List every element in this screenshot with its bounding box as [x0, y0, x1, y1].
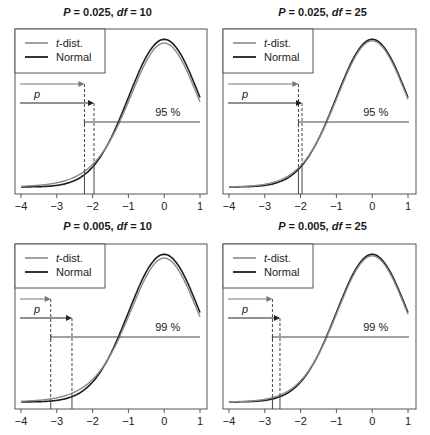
plot-panel-4: −4−3−2−101p99 %t-dist.Normal	[223, 244, 416, 427]
x-tick-label: −1	[122, 415, 135, 427]
x-tick-label: −1	[122, 200, 135, 212]
arrowhead-icon	[292, 81, 298, 87]
x-tick-label: −1	[330, 415, 343, 427]
chart-canvas: −4−3−2−101p95 %t-dist.Normal−4−3−2−101p9…	[0, 0, 430, 435]
x-tick-label: −3	[51, 415, 64, 427]
legend-label-normal: Normal	[56, 51, 91, 63]
x-tick-label: −3	[259, 200, 272, 212]
x-tick-label: −1	[330, 200, 343, 212]
x-tick-label: −2	[86, 415, 99, 427]
x-tick-label: −2	[294, 415, 307, 427]
legend-label-t-dist: t-dist.	[56, 252, 83, 264]
p-label: p	[241, 303, 248, 315]
plot-panel-1: −4−3−2−101p95 %t-dist.Normal	[15, 29, 207, 212]
x-tick-label: 1	[197, 415, 203, 427]
arrowhead-icon	[296, 100, 302, 106]
x-tick-label: 1	[405, 415, 411, 427]
legend: t-dist.Normal	[15, 244, 105, 288]
legend-label-normal: Normal	[264, 266, 299, 278]
plot-panel-2: −4−3−2−101p95 %t-dist.Normal	[223, 29, 416, 212]
x-tick-label: −4	[15, 415, 28, 427]
x-tick-label: −3	[259, 415, 272, 427]
x-tick-label: 1	[405, 200, 411, 212]
p-label: p	[241, 88, 248, 100]
coverage-label: 99 %	[155, 321, 180, 333]
x-tick-label: −2	[86, 200, 99, 212]
x-tick-label: −4	[223, 200, 236, 212]
coverage-label: 95 %	[155, 106, 180, 118]
arrowhead-icon	[45, 296, 51, 302]
legend: t-dist.Normal	[223, 29, 313, 73]
x-tick-label: −2	[294, 200, 307, 212]
legend-label-normal: Normal	[56, 266, 91, 278]
p-label: p	[33, 303, 40, 315]
coverage-label: 99 %	[363, 321, 388, 333]
legend-label-t-dist: t-dist.	[264, 252, 291, 264]
arrowhead-icon	[78, 81, 84, 87]
x-tick-label: 0	[369, 415, 375, 427]
x-tick-label: 0	[161, 200, 167, 212]
x-tick-label: −4	[223, 415, 236, 427]
p-label: p	[33, 88, 40, 100]
plot-panel-3: −4−3−2−101p99 %t-dist.Normal	[15, 244, 207, 427]
coverage-label: 95 %	[363, 106, 388, 118]
x-tick-label: 1	[197, 200, 203, 212]
arrowhead-icon	[274, 315, 280, 321]
legend-label-t-dist: t-dist.	[56, 37, 83, 49]
x-tick-label: 0	[161, 415, 167, 427]
legend: t-dist.Normal	[223, 244, 313, 288]
legend-label-normal: Normal	[264, 51, 299, 63]
arrowhead-icon	[266, 296, 272, 302]
arrowhead-icon	[66, 315, 72, 321]
legend-label-t-dist: t-dist.	[264, 37, 291, 49]
x-tick-label: −3	[51, 200, 64, 212]
x-tick-label: −4	[15, 200, 28, 212]
arrowhead-icon	[88, 100, 94, 106]
legend: t-dist.Normal	[15, 29, 105, 73]
x-tick-label: 0	[369, 200, 375, 212]
